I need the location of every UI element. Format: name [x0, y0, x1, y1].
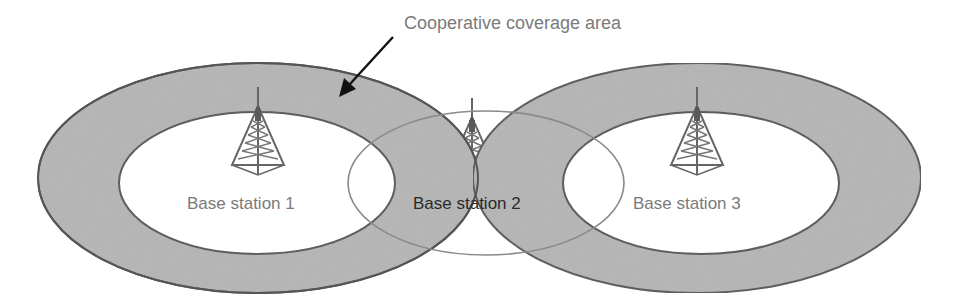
station-label-1: Base station 1	[187, 194, 295, 214]
station-label-2: Base station 2	[413, 194, 521, 214]
annotation-label: Cooperative coverage area	[404, 13, 621, 34]
coverage-diagram	[0, 0, 960, 308]
station-label-3: Base station 3	[633, 194, 741, 214]
